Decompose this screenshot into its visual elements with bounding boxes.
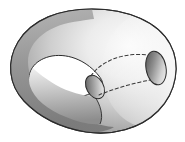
surface-diagram-svg: [0, 0, 185, 142]
surface-figure: Immersed genus surface with handle Shade…: [0, 0, 185, 142]
